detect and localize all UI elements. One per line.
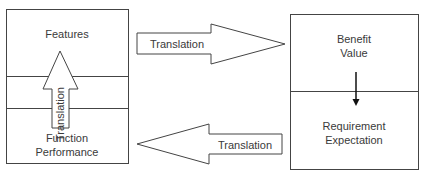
value-label: Value [290,46,418,60]
features-label: Features [6,27,128,41]
requirement-label: Requirement [290,119,418,133]
right-arrow-label: Translation [150,37,204,51]
benefit-label: Benefit [290,32,418,46]
performance-label: Performance [6,145,128,159]
function-label: Function [6,131,128,145]
expectation-label: Expectation [290,133,418,147]
down-arrow-head [353,99,360,106]
left-arrow-label: Translation [218,138,272,152]
